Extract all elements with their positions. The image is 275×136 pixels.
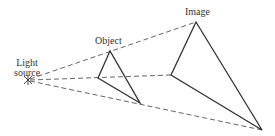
projection-diagram — [0, 0, 275, 136]
projection-rays — [30, 22, 262, 130]
image-triangle — [171, 22, 262, 130]
light-label-line2: source — [14, 68, 40, 78]
object-label: Object — [95, 36, 122, 46]
light-source-label: Light source — [14, 58, 40, 78]
image-label: Image — [185, 7, 210, 17]
